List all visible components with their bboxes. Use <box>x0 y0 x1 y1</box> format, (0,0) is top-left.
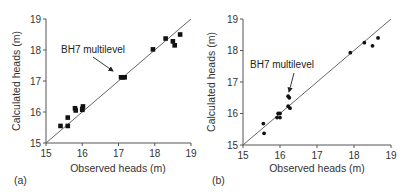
scatter-panel-a: 15161718191516171819 BH7 multilevel Obse… <box>10 14 197 187</box>
figure: 15161718191516171819 BH7 multilevel Obse… <box>0 0 410 195</box>
one-to-one-line-b <box>243 19 391 145</box>
x-tick-label: 15 <box>40 148 52 159</box>
y-tick-label: 16 <box>227 108 239 119</box>
scatter-panel-b: 15161718191516171819 BH7 multilevel Obse… <box>205 14 397 187</box>
data-point <box>287 96 291 100</box>
panel-label-b: (b) <box>212 174 225 186</box>
y-axis-label-a: Calculated heads (m) <box>10 31 22 131</box>
annotation-label-b: BH7 multilevel <box>250 59 314 70</box>
y-tick-label: 15 <box>30 138 42 149</box>
y-axis-label-b: Calculated heads (m) <box>205 32 217 132</box>
annotation-arrow-b <box>289 73 294 92</box>
x-tick-label: 15 <box>237 150 249 161</box>
data-point <box>278 116 282 120</box>
data-point <box>163 36 168 41</box>
x-tick-label: 19 <box>185 148 197 159</box>
y-tick-label: 18 <box>30 45 42 56</box>
data-point <box>178 32 183 37</box>
y-tick-label: 17 <box>30 76 42 87</box>
data-point <box>171 39 176 44</box>
data-point <box>288 106 292 110</box>
data-points-b <box>261 36 379 135</box>
data-point <box>65 124 70 129</box>
y-tick-label: 15 <box>227 140 239 151</box>
x-axis-label-b: Observed heads (m) <box>269 162 365 174</box>
y-tick-label: 18 <box>227 45 239 56</box>
x-tick-label: 18 <box>348 150 360 161</box>
x-tick-label: 16 <box>77 148 89 159</box>
data-point <box>261 122 265 126</box>
data-point <box>362 41 366 45</box>
y-tick-label: 19 <box>227 14 239 25</box>
y-tick-label: 17 <box>227 77 239 88</box>
x-tick-label: 19 <box>385 150 397 161</box>
data-point <box>376 36 380 40</box>
data-point <box>151 47 156 52</box>
panel-label-a: (a) <box>14 174 27 186</box>
y-tick-label: 19 <box>30 14 42 25</box>
data-point <box>348 51 352 55</box>
data-point <box>262 131 266 135</box>
annotation-arrow-a <box>93 57 113 71</box>
x-tick-label: 18 <box>149 148 161 159</box>
x-tick-label: 17 <box>113 148 125 159</box>
data-point <box>371 44 375 48</box>
annotation-label-a: BH7 multilevel <box>61 44 125 55</box>
x-axis-label-a: Observed heads (m) <box>70 162 166 174</box>
x-tick-label: 17 <box>311 150 323 161</box>
x-tick-label: 16 <box>274 150 286 161</box>
data-point <box>73 108 78 113</box>
data-point <box>65 115 70 120</box>
data-point <box>80 107 85 112</box>
data-point <box>58 124 63 129</box>
y-tick-label: 16 <box>30 107 42 118</box>
data-point <box>122 75 127 80</box>
data-point <box>278 112 282 116</box>
data-point <box>172 43 177 48</box>
